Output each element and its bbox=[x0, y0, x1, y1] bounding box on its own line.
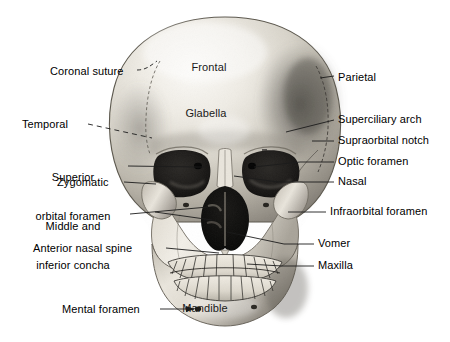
label-superciliary-arch: Superciliary arch bbox=[338, 113, 422, 126]
label-middle-and-inferior-concha-line2: inferior concha bbox=[18, 259, 128, 272]
label-frontal: Frontal bbox=[179, 61, 239, 74]
label-overlay: Coronal suture Temporal Superior orbital… bbox=[0, 0, 450, 342]
label-infraorbital-foramen: Infraorbital foramen bbox=[330, 205, 427, 218]
label-supraorbital-notch: Supraorbital notch bbox=[338, 134, 429, 147]
label-nasal: Nasal bbox=[338, 175, 367, 188]
label-optic-foramen: Optic foramen bbox=[338, 155, 408, 168]
skull-anatomy-figure: Coronal suture Temporal Superior orbital… bbox=[0, 0, 450, 342]
label-anterior-nasal-spine: Anterior nasal spine bbox=[33, 242, 132, 255]
label-parietal: Parietal bbox=[338, 71, 376, 84]
label-maxilla: Maxilla bbox=[318, 259, 353, 272]
label-vomer: Vomer bbox=[318, 237, 350, 250]
label-coronal-suture: Coronal suture bbox=[50, 65, 124, 78]
label-zygomatic: Zygomatic bbox=[57, 176, 109, 189]
label-glabella: Glabella bbox=[176, 107, 236, 120]
label-mandible: Mandible bbox=[174, 302, 236, 315]
label-temporal: Temporal bbox=[22, 118, 68, 131]
label-mental-foramen: Mental foramen bbox=[62, 303, 140, 316]
label-middle-and-inferior-concha-line1: Middle and bbox=[18, 220, 128, 233]
